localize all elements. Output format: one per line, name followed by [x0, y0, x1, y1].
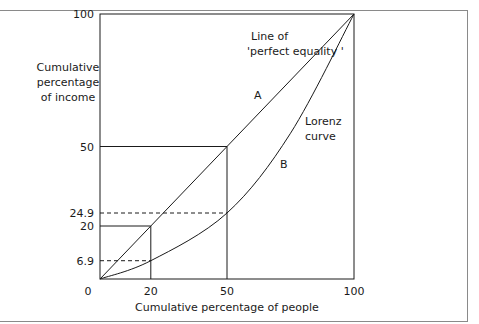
lorenz-label-2: curve	[305, 130, 336, 143]
y-tick-label: 50	[80, 141, 94, 154]
area-b-label: B	[280, 158, 288, 171]
x-tick-label: 0	[85, 285, 92, 298]
y-axis-label-line-1: Cumulative	[37, 61, 100, 74]
y-axis-label-line-3: of income	[41, 91, 96, 104]
equality-line-label-1: Line of	[251, 30, 289, 43]
y-tick-label: 20	[80, 220, 94, 233]
y-axis-label-line-2: percentage	[37, 76, 100, 89]
x-axis-label: Cumulative percentage of people	[135, 301, 319, 314]
y-tick-label: 24.9	[70, 207, 95, 220]
y-tick-label: 6.9	[77, 255, 95, 268]
y-tick-label: 100	[73, 8, 94, 21]
x-tick-label: 50	[220, 285, 234, 298]
x-tick-label: 100	[344, 285, 365, 298]
equality-line-label-2: 'perfect equality '	[247, 45, 344, 58]
lorenz-label-1: Lorenz	[305, 115, 342, 128]
x-tick-label: 20	[144, 285, 158, 298]
area-a-label: A	[254, 89, 262, 102]
lorenz-chart: 1005024.9206.9 02050100 Cumulative perce…	[0, 0, 479, 324]
